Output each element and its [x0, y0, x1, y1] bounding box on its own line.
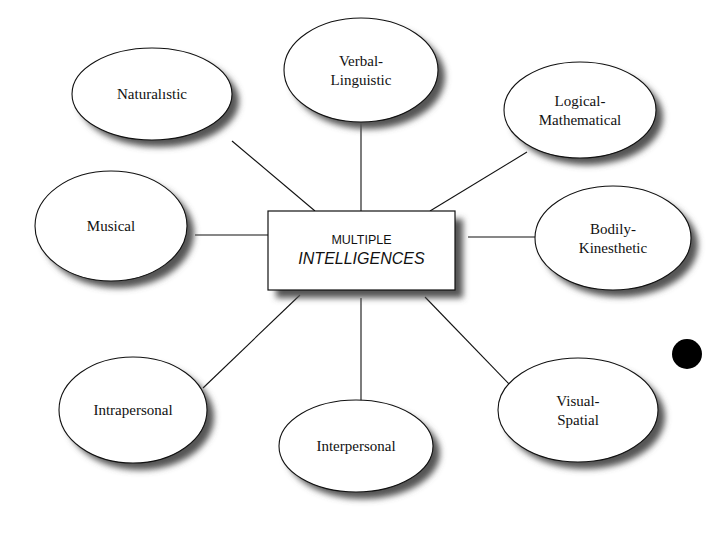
node-musical: Musical — [35, 171, 194, 288]
node-ellipse — [284, 18, 438, 122]
node-label: Naturalıstic — [117, 86, 187, 102]
central-box: MULTIPLE INTELLIGENCES — [268, 211, 463, 298]
node-intrapersonal: Intrapersonal — [59, 357, 214, 470]
diagram-canvas: NaturalısticVerbal-LinguisticLogical-Mat… — [0, 0, 708, 544]
connector-intrapersonal — [203, 295, 300, 388]
node-bodily-kinesthetic: Bodily-Kinesthetic — [535, 186, 698, 297]
node-label: Visual- — [556, 393, 599, 409]
node-label: Interpersonal — [316, 438, 395, 454]
node-label: Logical- — [555, 93, 606, 109]
node-ellipse — [535, 186, 691, 290]
node-label: Bodily- — [590, 221, 636, 237]
central-title-line1: MULTIPLE — [331, 233, 391, 247]
node-interpersonal: Interpersonal — [279, 400, 440, 499]
connector-logical-mathematical — [430, 152, 527, 211]
node-label: Linguistic — [331, 72, 392, 88]
central-title-line2: INTELLIGENCES — [298, 250, 425, 267]
node-visual-spatial: Visual-Spatial — [498, 358, 665, 469]
connector-naturalistic — [232, 141, 315, 211]
node-label: Musical — [87, 218, 135, 234]
node-label: Mathematical — [539, 112, 621, 128]
node-label: Intrapersonal — [93, 402, 172, 418]
connector-visual-spatial — [425, 297, 512, 387]
node-label: Spatial — [557, 412, 599, 428]
node-naturalistic: Naturalıstic — [72, 48, 239, 147]
node-logical-mathematical: Logical-Mathematical — [504, 62, 663, 165]
node-label: Verbal- — [339, 53, 383, 69]
multiple-intelligences-diagram: NaturalısticVerbal-LinguisticLogical-Mat… — [0, 0, 708, 544]
black-dot-marker — [672, 339, 702, 369]
node-ellipse — [498, 358, 658, 462]
node-verbal-linguistic: Verbal-Linguistic — [284, 18, 445, 129]
node-ellipse — [504, 62, 656, 158]
node-label: Kinesthetic — [579, 240, 648, 256]
